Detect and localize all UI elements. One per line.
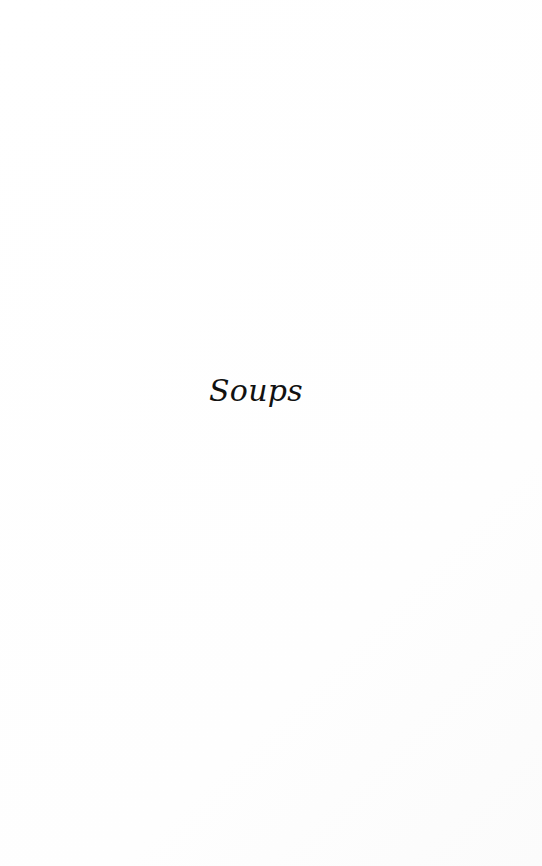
chapter-title: Soups: [209, 371, 303, 411]
book-page: Soups: [0, 0, 542, 866]
